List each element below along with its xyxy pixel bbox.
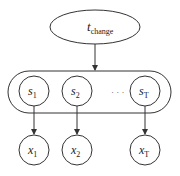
svg-text:x2: x2 [70, 143, 80, 159]
svg-text:s2: s2 [71, 84, 80, 100]
state-node-s2: s2 [62, 76, 92, 106]
state-node-s1: s1 [19, 76, 49, 106]
t-change-node: tchange [50, 10, 140, 44]
graphical-model-diagram: tchange s1 s2 · · · sT x1 x2 xT [0, 0, 180, 176]
state-node-sT: sT [130, 76, 160, 106]
svg-text:tchange: tchange [87, 19, 114, 36]
svg-text:x1: x1 [27, 143, 37, 159]
obs-node-x1: x1 [19, 135, 49, 165]
svg-text:s1: s1 [28, 84, 37, 100]
obs-node-xT: xT [130, 135, 160, 165]
ellipsis: · · · [111, 87, 125, 97]
obs-node-x2: x2 [62, 135, 92, 165]
t-change-subscript: change [91, 27, 114, 36]
svg-text:xT: xT [138, 143, 149, 159]
svg-text:sT: sT [139, 84, 149, 100]
